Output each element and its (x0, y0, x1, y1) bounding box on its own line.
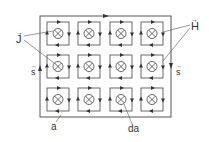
inner-loop-cell (108, 53, 134, 80)
circulation-arrow-icon (67, 99, 71, 103)
inner-loop-cell (76, 20, 102, 47)
circulation-arrow-icon (86, 76, 90, 80)
label-s-right: →s (176, 68, 181, 77)
inner-loop-grid (45, 20, 165, 113)
inner-loop-cell (45, 20, 71, 47)
inner-loop-cell (76, 86, 102, 113)
inner-loop-cell (45, 86, 71, 113)
label-a: a (51, 122, 57, 132)
circulation-arrow-icon (161, 99, 165, 103)
inner-loop-cell (108, 20, 134, 47)
circulation-arrow-icon (98, 33, 102, 37)
circulation-arrow-icon (139, 97, 143, 101)
circulation-arrow-icon (57, 86, 61, 90)
circulation-arrow-icon (118, 109, 122, 113)
circulation-arrow-icon (55, 109, 59, 113)
circulation-arrow-icon (76, 31, 80, 35)
circulation-arrow-icon (45, 64, 49, 68)
circulation-arrow-icon (45, 97, 49, 101)
inner-loop-cell (139, 20, 165, 47)
circulation-arrow-icon (76, 64, 80, 68)
circulation-arrow-icon (139, 64, 143, 68)
circulation-arrow-icon (130, 33, 134, 37)
circulation-arrow-icon (118, 76, 122, 80)
circulation-arrow-icon (149, 76, 153, 80)
circulation-arrow-icon (88, 86, 92, 90)
circulation-arrow-icon (57, 20, 61, 24)
circulation-arrow-icon (118, 43, 122, 47)
inner-loop-cell (139, 86, 165, 113)
inner-loop-cell (76, 53, 102, 80)
circulation-arrow-icon (161, 33, 165, 37)
circulation-arrow-icon (120, 20, 124, 24)
circulation-arrow-icon (88, 20, 92, 24)
circulation-arrow-icon (86, 43, 90, 47)
circulation-arrow-icon (98, 66, 102, 70)
circulation-arrow-icon (108, 97, 112, 101)
label-s-left: →s (31, 68, 36, 77)
inner-loop-cell (139, 53, 165, 80)
circulation-arrow-icon (130, 66, 134, 70)
label-H: →H (191, 21, 199, 32)
inner-loop-cell (108, 86, 134, 113)
circulation-arrow-icon (57, 53, 61, 57)
circulation-arrow-icon (88, 53, 92, 57)
circulation-arrow-icon (98, 99, 102, 103)
circulation-arrow-icon (67, 66, 71, 70)
circulation-arrow-icon (120, 53, 124, 57)
circulation-arrow-icon (161, 66, 165, 70)
label-da: da (128, 124, 139, 134)
circulation-arrow-icon (55, 76, 59, 80)
circulation-arrow-icon (151, 86, 155, 90)
circulation-arrow-icon (149, 43, 153, 47)
circulation-arrow-icon (139, 31, 143, 35)
outer-boundary (40, 16, 171, 117)
circulation-arrow-icon (108, 31, 112, 35)
inner-loop-cell (45, 53, 71, 80)
circulation-arrow-icon (151, 20, 155, 24)
circulation-arrow-icon (108, 64, 112, 68)
circulation-arrow-icon (149, 109, 153, 113)
circulation-arrow-icon (76, 97, 80, 101)
circulation-arrow-icon (86, 109, 90, 113)
label-J: →J (16, 34, 22, 45)
circulation-arrow-icon (55, 43, 59, 47)
leader-lines (24, 25, 190, 124)
circulation-arrow-icon (151, 53, 155, 57)
circulation-arrow-icon (130, 99, 134, 103)
circulation-arrow-icon (67, 33, 71, 37)
circulation-arrow-icon (120, 86, 124, 90)
